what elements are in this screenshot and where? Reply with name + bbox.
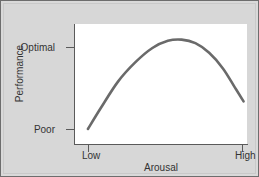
y-axis-title: Performance [14,34,25,114]
inverted-u-curve [88,39,244,129]
x-tick-label-high: High [235,150,256,161]
plot-area [75,24,247,144]
y-tick-label-poor: Poor [34,124,55,135]
y-tick-label-optimal: Optimal [21,42,55,53]
x-axis-title: Arousal [75,162,247,173]
figure-container: Optimal Poor Low High Performance Arousa… [0,0,259,177]
figure-inner-panel: Optimal Poor Low High Performance Arousa… [3,3,256,174]
x-axis-line [75,144,248,145]
x-tick-label-low: Low [82,150,100,161]
y-tick-optimal [66,47,75,48]
y-axis-line [74,24,75,145]
performance-arousal-curve-svg [75,24,247,144]
y-tick-poor [66,129,75,130]
